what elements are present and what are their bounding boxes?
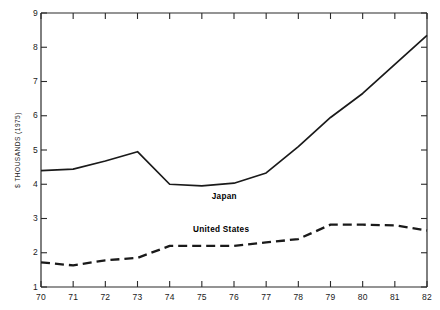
x-tick-label: 71 (63, 292, 83, 302)
line-chart-svg: $ THOUSANDS (1975) JapanUnited States (0, 0, 440, 310)
x-tick-label: 73 (128, 292, 148, 302)
series-annotation-japan: Japan (212, 192, 237, 201)
x-tick-label: 77 (256, 292, 276, 302)
chart-container: $ THOUSANDS (1975) JapanUnited States 12… (0, 0, 440, 310)
series-annotations: JapanUnited States (193, 192, 249, 234)
x-tick-label: 74 (160, 292, 180, 302)
x-tick-label: 79 (321, 292, 341, 302)
x-tick-label: 81 (385, 292, 405, 302)
y-tick-label: 7 (28, 76, 38, 86)
y-tick-label: 3 (28, 213, 38, 223)
y-tick-label: 9 (28, 8, 38, 18)
x-tick-label: 78 (288, 292, 308, 302)
y-axis-ticks (41, 13, 427, 287)
x-tick-label: 80 (353, 292, 373, 302)
x-tick-label: 82 (417, 292, 437, 302)
x-tick-label: 72 (95, 292, 115, 302)
y-tick-label: 4 (28, 179, 38, 189)
y-tick-label: 6 (28, 110, 38, 120)
y-tick-label: 8 (28, 42, 38, 52)
x-tick-label: 70 (31, 292, 51, 302)
y-axis-label: $ THOUSANDS (1975) (14, 112, 22, 188)
x-axis-ticks (41, 13, 427, 287)
series-line-japan (41, 35, 427, 186)
y-tick-label: 5 (28, 145, 38, 155)
y-tick-label: 1 (28, 282, 38, 292)
series-annotation-united-states: United States (193, 225, 249, 234)
plot-frame (41, 13, 427, 287)
x-tick-label: 75 (192, 292, 212, 302)
y-tick-label: 2 (28, 247, 38, 257)
x-tick-label: 76 (224, 292, 244, 302)
